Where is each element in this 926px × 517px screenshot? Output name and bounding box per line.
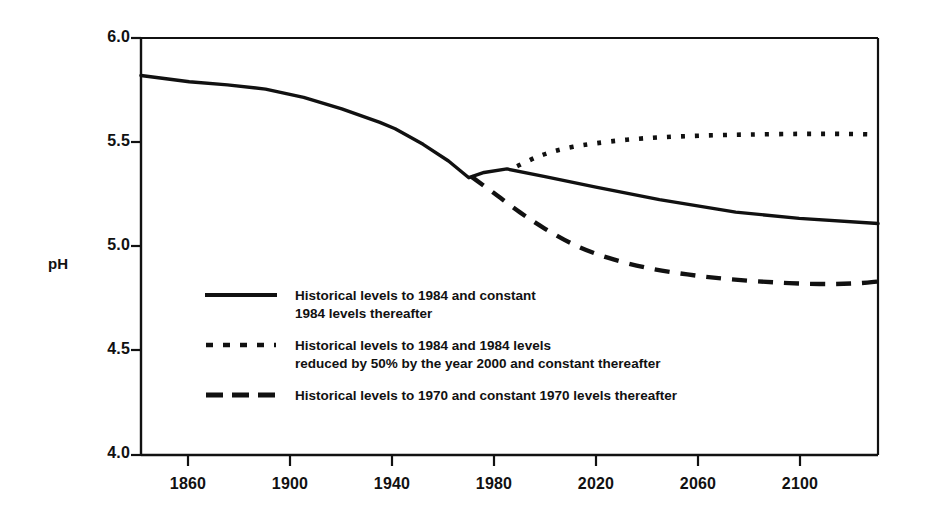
plot-area — [0, 0, 926, 517]
legend-entry-dotted: Historical levels to 1984 and 1984 level… — [205, 336, 765, 372]
legend-marker-dotted-line — [205, 336, 277, 356]
series-line-solid — [141, 76, 878, 224]
ph-trend-chart: pH 6.0 5.5 5.0 4.5 4.0 1860 1900 1940 19… — [0, 0, 926, 517]
legend-label-solid: Historical levels to 1984 and constant 1… — [295, 286, 536, 322]
legend-marker-solid-line — [205, 286, 277, 306]
series-line-dotted — [517, 134, 878, 166]
legend-label-dotted: Historical levels to 1984 and 1984 level… — [295, 336, 660, 372]
legend-marker-dashed-line — [205, 386, 277, 406]
y-ticks — [131, 38, 141, 455]
series-line-dashed — [471, 177, 878, 284]
x-ticks — [188, 455, 800, 466]
legend-entry-solid: Historical levels to 1984 and constant 1… — [205, 286, 765, 322]
chart-legend: Historical levels to 1984 and constant 1… — [205, 286, 765, 420]
series-layer — [141, 76, 878, 285]
legend-label-dashed: Historical levels to 1970 and constant 1… — [295, 386, 677, 405]
legend-entry-dashed: Historical levels to 1970 and constant 1… — [205, 386, 765, 406]
